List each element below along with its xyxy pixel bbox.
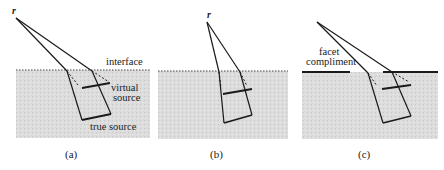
- medium-region: [158, 71, 288, 139]
- panel-a-caption: (a): [65, 148, 77, 160]
- virtual-source-label-line2: source: [113, 93, 140, 103]
- panel-a: r interface virtual source true source (…: [0, 0, 150, 170]
- true-source-label: true source: [90, 122, 136, 132]
- medium-region: [302, 72, 438, 139]
- point-r-label: r: [207, 9, 211, 20]
- point-r-label: r: [12, 5, 16, 16]
- panel-b-diagram: [150, 0, 295, 170]
- panel-b: r (b): [150, 0, 295, 170]
- facet-compliment-label-line2: compliment: [306, 57, 356, 67]
- panel-c: facet compliment (c): [295, 0, 444, 170]
- panel-c-diagram: [295, 0, 444, 170]
- interface-label: interface: [106, 57, 143, 67]
- panel-b-caption: (b): [210, 148, 223, 160]
- panel-c-caption: (c): [358, 148, 370, 160]
